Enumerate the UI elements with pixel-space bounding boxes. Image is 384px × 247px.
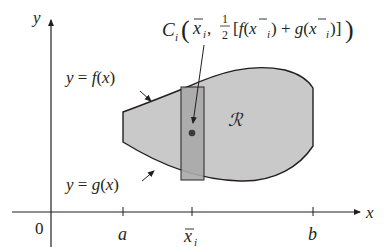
svg-text:(: ( <box>181 15 190 44</box>
svg-text:i: i <box>194 236 197 247</box>
svg-text:x: x <box>192 18 201 38</box>
svg-text:C: C <box>162 19 175 40</box>
svg-text:i: i <box>175 31 178 43</box>
svg-text:y = f(x): y = f(x) <box>64 68 115 87</box>
region-r <box>123 68 313 181</box>
svg-text:i: i <box>203 28 206 40</box>
svg-text:1: 1 <box>222 12 228 26</box>
origin-label: 0 <box>35 219 44 238</box>
svg-text:,: , <box>207 19 211 38</box>
svg-text:)]: )] <box>330 19 341 38</box>
y-axis-label: y <box>31 8 41 27</box>
lower-curve-label: y = g(x) <box>64 175 119 194</box>
svg-text:y = g(x): y = g(x) <box>64 175 119 194</box>
tick-label-b: b <box>308 224 317 244</box>
centroid-label: C i ( x i , 1 2 [f(x i ) + g(x i )] ) <box>162 12 354 44</box>
svg-text:i: i <box>267 28 270 40</box>
centroid-point <box>189 130 196 137</box>
svg-text:i: i <box>326 28 329 40</box>
tick-label-a: a <box>118 224 127 244</box>
region-label: ℛ <box>228 110 244 130</box>
centroid-diagram: y x 0 a x i b y = f(x) y = g(x) ℛ C i ( … <box>0 0 384 247</box>
svg-text:) + g(x: ) + g(x <box>271 19 317 38</box>
upper-curve-pointer <box>140 91 151 101</box>
svg-text:[f(x: [f(x <box>233 19 257 38</box>
svg-text:2: 2 <box>222 28 228 42</box>
tick-label-xbar-i: x i <box>183 226 197 247</box>
svg-text:): ) <box>345 15 354 44</box>
upper-curve-label: y = f(x) <box>64 68 115 87</box>
svg-text:x: x <box>183 226 192 246</box>
lower-curve-pointer <box>142 171 154 181</box>
x-axis-label: x <box>365 203 374 222</box>
